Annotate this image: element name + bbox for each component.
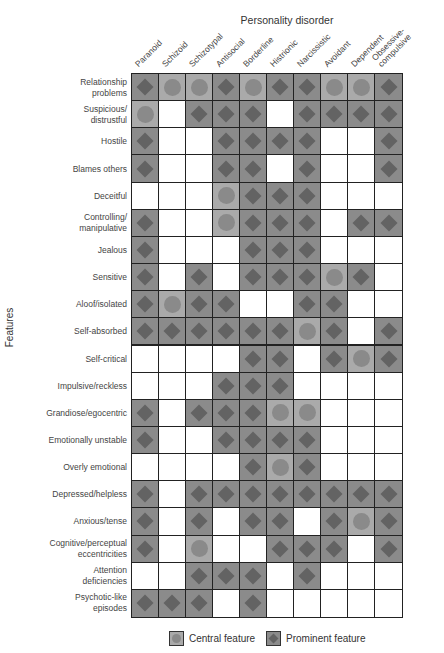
row-label-line: Attention bbox=[83, 565, 127, 576]
diamond-icon bbox=[353, 214, 370, 231]
matrix-cell bbox=[240, 101, 267, 128]
row-label-line: Hostile bbox=[101, 136, 127, 147]
matrix-cell bbox=[267, 590, 294, 617]
diamond-icon bbox=[191, 567, 208, 584]
matrix-cell bbox=[159, 373, 186, 400]
column-label: Avoidant bbox=[323, 39, 353, 69]
diamond-icon bbox=[272, 513, 289, 530]
diamond-icon bbox=[299, 214, 316, 231]
diamond-icon bbox=[245, 133, 262, 150]
diamond-icon bbox=[299, 160, 316, 177]
matrix-cell bbox=[321, 590, 348, 617]
matrix-cell bbox=[159, 155, 186, 182]
matrix-cell bbox=[375, 400, 402, 427]
matrix-cell bbox=[159, 590, 186, 617]
row-label-line: Aloof/isolated bbox=[76, 299, 127, 310]
matrix-cell bbox=[240, 400, 267, 427]
column-labels: ParanoidSchizoidSchizotypalAntisocialBor… bbox=[131, 30, 403, 73]
matrix-cell bbox=[132, 128, 159, 155]
matrix-cell bbox=[294, 237, 321, 264]
diamond-icon bbox=[245, 323, 262, 340]
diamond-icon bbox=[164, 323, 181, 340]
legend: Central feature Prominent feature bbox=[0, 631, 444, 649]
matrix-cell bbox=[132, 536, 159, 563]
diamond-icon bbox=[245, 567, 262, 584]
matrix-cell bbox=[186, 400, 213, 427]
matrix-cell bbox=[213, 427, 240, 454]
diamond-icon bbox=[380, 513, 397, 530]
diamond-icon bbox=[137, 513, 154, 530]
diamond-icon bbox=[191, 296, 208, 313]
matrix-cell bbox=[132, 563, 159, 590]
matrix-cell bbox=[348, 508, 375, 535]
matrix-cell bbox=[159, 237, 186, 264]
diamond-icon bbox=[380, 486, 397, 503]
diamond-icon bbox=[272, 377, 289, 394]
matrix-cell bbox=[321, 536, 348, 563]
matrix-cell bbox=[240, 237, 267, 264]
row-label: Suspicious/distrustful bbox=[20, 101, 127, 128]
matrix-cell bbox=[240, 183, 267, 210]
matrix-cell bbox=[159, 481, 186, 508]
matrix-cell bbox=[267, 291, 294, 318]
diamond-icon bbox=[326, 106, 343, 123]
diamond-icon bbox=[218, 133, 235, 150]
feature-matrix-grid bbox=[131, 73, 403, 618]
matrix-cell bbox=[348, 481, 375, 508]
diamond-icon bbox=[245, 187, 262, 204]
matrix-cell bbox=[159, 210, 186, 237]
row-label-line: Blames others bbox=[73, 164, 127, 175]
diamond-icon bbox=[218, 323, 235, 340]
diamond-icon bbox=[326, 323, 343, 340]
circle-icon bbox=[164, 79, 181, 96]
diamond-icon bbox=[137, 133, 154, 150]
matrix-cell bbox=[294, 155, 321, 182]
diamond-icon bbox=[218, 79, 235, 96]
matrix-cell bbox=[294, 318, 321, 345]
legend-item-prominent: Prominent feature bbox=[266, 631, 366, 646]
matrix-cell bbox=[186, 264, 213, 291]
matrix-cell bbox=[321, 237, 348, 264]
row-label: Grandiose/egocentric bbox=[20, 400, 127, 427]
circle-icon bbox=[299, 323, 316, 340]
circle-icon bbox=[353, 79, 370, 96]
matrix-cell bbox=[132, 183, 159, 210]
diamond-icon bbox=[137, 79, 154, 96]
matrix-cell bbox=[294, 400, 321, 427]
matrix-cell bbox=[240, 264, 267, 291]
matrix-cell bbox=[348, 590, 375, 617]
matrix-cell bbox=[132, 454, 159, 481]
matrix-cell bbox=[186, 74, 213, 101]
matrix-cell bbox=[321, 373, 348, 400]
matrix-cell bbox=[186, 563, 213, 590]
matrix-cell bbox=[375, 318, 402, 345]
matrix-cell bbox=[375, 291, 402, 318]
matrix-cell bbox=[186, 481, 213, 508]
matrix-cell bbox=[213, 183, 240, 210]
matrix-cell bbox=[294, 373, 321, 400]
matrix-cell bbox=[267, 563, 294, 590]
matrix-cell bbox=[321, 210, 348, 237]
matrix-cell bbox=[267, 128, 294, 155]
diamond-icon bbox=[245, 513, 262, 530]
matrix-cell bbox=[186, 590, 213, 617]
matrix-cell bbox=[159, 400, 186, 427]
diamond-icon bbox=[245, 377, 262, 394]
circle-icon bbox=[272, 459, 289, 476]
matrix-cell bbox=[375, 155, 402, 182]
diamond-icon bbox=[245, 595, 262, 612]
matrix-cell bbox=[132, 508, 159, 535]
matrix-cell bbox=[132, 318, 159, 345]
matrix-cell bbox=[159, 183, 186, 210]
row-label-line: Relationship bbox=[80, 77, 127, 88]
diamond-icon bbox=[299, 567, 316, 584]
matrix-cell bbox=[348, 400, 375, 427]
column-label: Schizoid bbox=[161, 40, 190, 69]
row-label: Deceitful bbox=[20, 183, 127, 210]
row-label: Attentiondeficiencies bbox=[20, 563, 127, 590]
matrix-cell bbox=[213, 454, 240, 481]
diamond-icon bbox=[272, 214, 289, 231]
matrix-cell bbox=[213, 400, 240, 427]
row-label: Psychotic-likeepisodes bbox=[20, 590, 127, 617]
matrix-cell bbox=[348, 536, 375, 563]
